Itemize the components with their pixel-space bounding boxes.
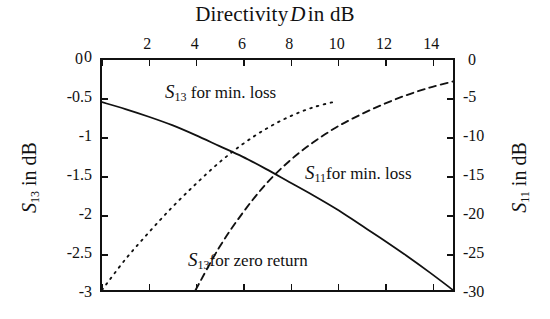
curve-label-s11-min-loss-series: S <box>305 162 315 183</box>
y-axis-right-tick-label: -15 <box>463 167 484 183</box>
curve-label-s13-zero-return-subscript: 13 <box>198 258 210 272</box>
y-axis-left-title-series: S <box>18 203 40 213</box>
x-axis-tick <box>101 284 103 290</box>
y-axis-left-tick <box>102 137 108 139</box>
x-axis-tick-label: 4 <box>191 36 199 52</box>
y-axis-left-tick-label: -1 <box>40 128 92 144</box>
y-axis-right-tick <box>447 137 453 139</box>
x-axis-tick <box>149 284 151 290</box>
y-axis-right-title-series: S <box>508 203 530 213</box>
y-axis-right-tick-label: -25 <box>463 245 484 261</box>
x-axis-tick-label: 8 <box>285 36 293 52</box>
curve-label-s13-min-loss: S13 for min. loss <box>165 82 276 103</box>
chart-title-prefix: Directivity <box>195 2 288 26</box>
curve-label-s13-zero-return: S13for zero return <box>188 250 308 271</box>
curve-label-s13-min-loss-series: S <box>165 81 175 102</box>
x-axis-tick <box>149 60 151 66</box>
y-axis-left-title: S13 in dB <box>18 108 43 248</box>
x-axis-tick-label: 2 <box>143 36 151 52</box>
chart-title-suffix: in dB <box>308 2 355 26</box>
x-axis-tick <box>433 60 435 66</box>
y-axis-left-tick <box>102 254 108 256</box>
y-axis-left-tick-label: -3 <box>40 284 92 300</box>
y-axis-right-zero-label: 0 <box>468 51 476 69</box>
y-axis-right-tick-label: -10 <box>463 128 484 144</box>
y-axis-left-zero-label: 0 <box>75 50 83 68</box>
x-axis-tick <box>385 60 387 66</box>
curve-label-s13-zero-return-series: S <box>188 249 198 270</box>
curve-label-s11-min-loss-text: for min. loss <box>326 164 411 183</box>
y-axis-right-title-rest: in dB <box>508 142 530 186</box>
x-axis-tick <box>196 284 198 290</box>
y-axis-right-tick <box>447 215 453 217</box>
chart-title-variable: D <box>288 2 307 26</box>
y-axis-right-tick <box>447 98 453 100</box>
y-axis-left-tick <box>102 215 108 217</box>
curve-label-s13-min-loss-text: for min. loss <box>191 83 276 102</box>
x-axis-tick <box>243 284 245 290</box>
x-axis-tick <box>433 284 435 290</box>
x-axis-tick <box>291 284 293 290</box>
y-axis-right-tick-label: -5 <box>463 89 476 105</box>
x-axis-tick <box>338 284 340 290</box>
x-axis-tick-label: 12 <box>376 36 392 52</box>
x-axis-tick <box>101 60 103 66</box>
x-axis-zero-label: 0 <box>84 48 92 66</box>
curve-label-s11-min-loss: S11for min. loss <box>305 163 412 184</box>
y-axis-right-tick <box>447 254 453 256</box>
y-axis-left-tick-label: -2.5 <box>40 245 92 261</box>
y-axis-left-title-rest: in dB <box>18 142 40 186</box>
y-axis-right-title: S11 in dB <box>508 108 533 248</box>
x-axis-tick <box>291 60 293 66</box>
chart-figure: DirectivityDin dB 0 0 0 S13 in dB S11 in… <box>0 0 550 319</box>
y-axis-left-tick-label: -0.5 <box>40 89 92 105</box>
x-axis-tick-label: 14 <box>423 36 439 52</box>
y-axis-left-tick <box>102 98 108 100</box>
x-axis-tick-label: 6 <box>238 36 246 52</box>
x-axis-tick-label: 10 <box>329 36 345 52</box>
x-axis-tick <box>338 60 340 66</box>
y-axis-left-tick-label: -2 <box>40 206 92 222</box>
y-axis-right-tick-label: -20 <box>463 206 484 222</box>
curve-label-s13-min-loss-subscript: 13 <box>175 90 187 104</box>
y-axis-right-title-subscript: 11 <box>518 191 532 203</box>
curve-label-s11-min-loss-subscript: 11 <box>315 171 327 185</box>
curve-label-s13-zero-return-text: for zero return <box>210 251 308 270</box>
y-axis-left-tick <box>102 176 108 178</box>
y-axis-left-title-subscript: 13 <box>28 191 42 203</box>
x-axis-tick <box>385 284 387 290</box>
y-axis-left-tick-label: -1.5 <box>40 167 92 183</box>
y-axis-right-tick-label: -30 <box>463 284 484 300</box>
x-axis-tick <box>243 60 245 66</box>
chart-title: DirectivityDin dB <box>0 2 550 27</box>
y-axis-right-tick <box>447 176 453 178</box>
x-axis-tick <box>196 60 198 66</box>
